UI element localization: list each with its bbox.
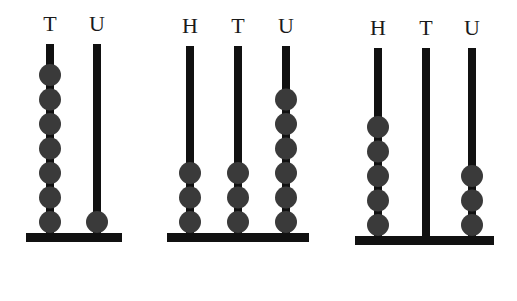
- abacus-1: TU: [26, 11, 122, 242]
- bead: [461, 190, 483, 212]
- bead: [39, 89, 61, 111]
- column-u: U: [275, 13, 297, 233]
- column-u: U: [86, 11, 108, 233]
- bead: [39, 162, 61, 184]
- bead: [461, 165, 483, 187]
- place-value-label: T: [231, 13, 245, 38]
- bead: [275, 138, 297, 160]
- bead: [39, 211, 61, 233]
- bead: [179, 187, 201, 209]
- bead: [179, 162, 201, 184]
- column-t: T: [39, 11, 61, 233]
- bead: [86, 211, 108, 233]
- abacus-2: HTU: [167, 13, 309, 242]
- bead: [227, 162, 249, 184]
- place-value-label: U: [89, 11, 105, 36]
- place-value-label: T: [43, 11, 57, 36]
- abacus-base: [26, 233, 122, 242]
- bead: [227, 187, 249, 209]
- abacus-base: [355, 236, 494, 245]
- place-value-label: T: [419, 15, 433, 40]
- column-t: T: [227, 13, 249, 233]
- abacus-base: [167, 233, 309, 242]
- column-h: H: [179, 13, 201, 233]
- place-value-label: U: [278, 13, 294, 38]
- place-value-label: H: [182, 13, 198, 38]
- place-value-label: U: [464, 15, 480, 40]
- bead: [275, 162, 297, 184]
- bead: [275, 187, 297, 209]
- bead: [461, 214, 483, 236]
- bead: [367, 116, 389, 138]
- bead: [179, 211, 201, 233]
- bead: [39, 138, 61, 160]
- column-t: T: [419, 15, 433, 236]
- place-value-label: H: [370, 15, 386, 40]
- bead: [275, 211, 297, 233]
- rod: [93, 44, 101, 233]
- bead: [275, 113, 297, 135]
- abacus-diagram: TUHTUHTU: [0, 0, 517, 301]
- bead: [227, 211, 249, 233]
- rod: [422, 48, 430, 236]
- bead: [367, 165, 389, 187]
- bead: [39, 113, 61, 135]
- column-u: U: [461, 15, 483, 236]
- bead: [367, 141, 389, 163]
- bead: [39, 64, 61, 86]
- bead: [367, 190, 389, 212]
- bead: [367, 214, 389, 236]
- abacus-3: HTU: [355, 15, 494, 245]
- bead: [275, 89, 297, 111]
- bead: [39, 187, 61, 209]
- column-h: H: [367, 15, 389, 236]
